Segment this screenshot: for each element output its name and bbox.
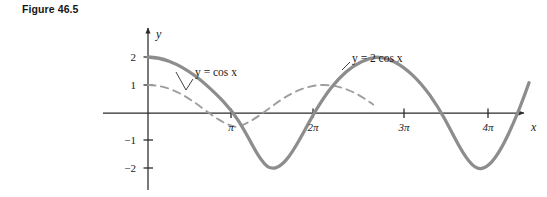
x-tick-label-3pi: 3π xyxy=(397,121,410,133)
x-tick-label-4pi: 4π xyxy=(482,121,494,133)
y-tick-label-neg1: −1 xyxy=(124,134,136,146)
x-tick-label-2pi: 2π xyxy=(307,121,319,133)
curve-label-2cos: y = 2 cos x xyxy=(352,52,403,65)
x-tick-label-pi: π xyxy=(228,121,234,133)
y-tick-label-1: 1 xyxy=(131,79,137,91)
leader-line-cos xyxy=(176,72,193,90)
cosine-graph-plot: y x 2 1 −1 −2 π 2π 3π 4π y = cos x y = 2… xyxy=(0,0,547,197)
curve-cos-x xyxy=(148,85,373,127)
y-axis-label: y xyxy=(155,27,162,41)
x-axis-label: x xyxy=(530,120,537,134)
figure-container: Figure 46.5 xyxy=(0,0,547,197)
curve-label-cos: y = cos x xyxy=(195,66,237,79)
y-tick-label-neg2: −2 xyxy=(124,162,136,174)
y-tick-label-2: 2 xyxy=(131,51,137,63)
